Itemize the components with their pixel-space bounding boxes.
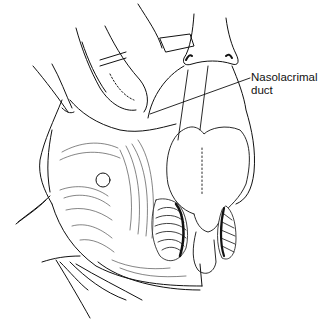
label-line-2: duct xyxy=(251,84,317,97)
foramen-circle xyxy=(96,173,110,187)
illustration-canvas: Nasolacrimal duct xyxy=(0,0,324,329)
nasolacrimal-duct-label: Nasolacrimal duct xyxy=(251,71,317,97)
surgical-illustration xyxy=(0,0,324,329)
left-retractor xyxy=(16,130,52,224)
fingers-drawing xyxy=(33,4,194,113)
right-opening xyxy=(218,206,237,259)
leader-line xyxy=(150,78,250,114)
label-line-1: Nasolacrimal xyxy=(251,71,317,84)
suture-strands xyxy=(42,256,200,318)
